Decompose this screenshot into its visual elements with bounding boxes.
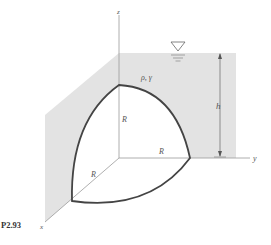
depth-label: h: [216, 101, 221, 111]
axis-label-x: x: [39, 223, 44, 231]
radius-label-x: R: [90, 170, 96, 179]
radius-label-z: R: [121, 115, 127, 124]
diagram-canvas: z y x ρ, γ h R R R P2.93: [0, 0, 271, 245]
axis-label-y: y: [252, 154, 257, 163]
fluid-label: ρ, γ: [140, 73, 153, 82]
axis-label-z: z: [116, 8, 120, 16]
figure-number: P2.93: [1, 220, 21, 230]
free-surface-icon: [171, 42, 185, 51]
radius-label-y: R: [158, 147, 164, 156]
